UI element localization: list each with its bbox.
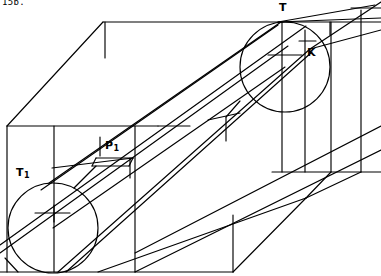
label-T-sub <box>287 6 288 15</box>
label-point-K: K <box>307 47 316 61</box>
low-sweep-3 <box>135 150 381 272</box>
technical-drawing-canvas <box>0 0 381 276</box>
label-point-P1: P1 <box>105 140 119 154</box>
label-K-sub <box>316 51 317 60</box>
circle-group-T1 <box>5 183 98 273</box>
long-line-outer-1 <box>0 26 306 245</box>
box-top-frame <box>7 8 381 126</box>
bottom-right-diagonal <box>233 198 306 272</box>
long-line-outer-2 <box>0 46 288 253</box>
tangent-upper-1 <box>49 22 281 183</box>
right-bottom-diagonal <box>306 172 361 198</box>
label-P1-base: P <box>105 139 113 152</box>
box-left-face <box>0 126 306 272</box>
label-point-T1: T1 <box>16 167 30 181</box>
top-left-diagonal <box>7 22 103 126</box>
tangent-construction-lines <box>0 22 381 272</box>
label-P1-sub: 1 <box>113 144 119 153</box>
drawing-geometry <box>0 2 381 273</box>
P1-box-left <box>92 158 96 166</box>
apex-line-b <box>278 18 381 22</box>
apex-line-c <box>310 2 381 49</box>
axis-T1-to-T <box>53 67 285 228</box>
upper-right-convergence <box>278 2 381 49</box>
label-T1-base: T <box>16 166 24 179</box>
label-K-base: K <box>307 46 316 59</box>
label-T1-sub: 1 <box>24 171 30 180</box>
label-T-base: T <box>279 1 287 14</box>
tangent-lower-1 <box>58 49 310 272</box>
label-point-T: T <box>279 2 287 16</box>
